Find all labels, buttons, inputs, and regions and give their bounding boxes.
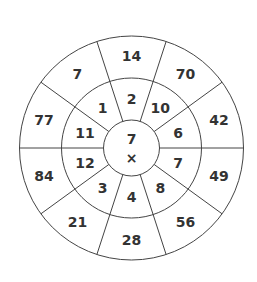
outer-ring-value: 21 xyxy=(68,214,87,230)
outer-ring-value: 84 xyxy=(34,168,54,184)
outer-ring-value: 28 xyxy=(122,232,141,248)
inner-ring-value: 6 xyxy=(173,125,183,141)
outer-ring-value: 49 xyxy=(209,168,228,184)
inner-ring-value: 3 xyxy=(98,180,108,196)
wheel-lines xyxy=(20,36,244,260)
outer-ring-value: 42 xyxy=(209,112,228,128)
inner-ring-value: 10 xyxy=(151,100,171,116)
inner-ring-value: 12 xyxy=(75,155,94,171)
center-number: 7 xyxy=(127,131,137,147)
outer-ring-value: 56 xyxy=(176,214,195,230)
inner-ring-value: 7 xyxy=(173,155,183,171)
outer-ring-value: 14 xyxy=(122,48,142,64)
multiplication-wheel: 7 × 21410706427498564283211284117717 xyxy=(0,0,257,282)
outer-ring-value: 70 xyxy=(176,66,196,82)
inner-circle xyxy=(104,120,160,176)
outer-ring-value: 7 xyxy=(73,66,83,82)
inner-ring-value: 4 xyxy=(127,189,137,205)
outer-ring-value: 77 xyxy=(34,112,53,128)
inner-ring-value: 8 xyxy=(155,180,165,196)
inner-ring-value: 11 xyxy=(75,125,94,141)
inner-ring-value: 2 xyxy=(127,91,137,107)
inner-ring-value: 1 xyxy=(98,100,108,116)
center-operator: × xyxy=(126,150,138,166)
